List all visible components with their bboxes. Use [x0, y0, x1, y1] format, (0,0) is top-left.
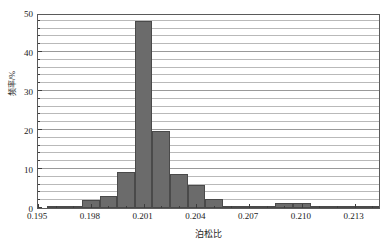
- y-axis-minor-tick: [38, 184, 40, 185]
- y-axis-major-tick: [38, 207, 42, 208]
- y-axis-tick-label: 50: [24, 10, 33, 19]
- y-axis-major-tick: [38, 168, 42, 169]
- y-axis-minor-tick: [38, 106, 40, 107]
- y-axis-minor-tick: [38, 176, 40, 177]
- y-axis-tick-label: 10: [24, 166, 33, 175]
- x-axis-minor-tick: [337, 206, 338, 208]
- y-axis-minor-tick: [38, 199, 40, 200]
- y-axis-minor-tick: [38, 20, 40, 21]
- x-axis-tick-label: 0.210: [291, 211, 311, 221]
- x-axis-major-tick: [196, 204, 197, 208]
- y-axis-minor-tick: [38, 113, 40, 114]
- y-axis-minor-tick: [38, 59, 40, 60]
- histogram-figure: 频率/% 01020304050 0.1950.1980.2010.2040.2…: [0, 0, 388, 249]
- x-axis-major-tick: [249, 204, 250, 208]
- x-tick-label-group: 0.1950.1980.2010.2040.2070.2100.213: [37, 211, 380, 225]
- x-axis-major-tick: [144, 204, 145, 208]
- y-axis-tick-label: 30: [24, 88, 33, 97]
- x-axis-tick-label: 0.198: [80, 211, 100, 221]
- y-axis-minor-tick: [38, 98, 40, 99]
- histogram-bar: [170, 174, 188, 208]
- x-axis-minor-tick: [161, 206, 162, 208]
- y-axis-minor-tick: [38, 74, 40, 75]
- x-axis-minor-tick: [372, 206, 373, 208]
- y-axis-minor-tick: [38, 121, 40, 122]
- x-axis-major-tick: [302, 204, 303, 208]
- x-axis-tick-label: 0.207: [238, 211, 258, 221]
- x-axis-minor-tick: [319, 206, 320, 208]
- y-axis-minor-tick: [38, 35, 40, 36]
- x-axis-minor-tick: [56, 206, 57, 208]
- y-axis-major-tick: [38, 129, 42, 130]
- x-axis-tick-label: 0.204: [185, 211, 205, 221]
- plot-area: [37, 14, 380, 209]
- y-axis-tick-label: 40: [24, 49, 33, 58]
- x-axis-minor-tick: [267, 206, 268, 208]
- y-axis-minor-tick: [38, 152, 40, 153]
- x-axis-minor-tick: [231, 206, 232, 208]
- y-axis-minor-tick: [38, 82, 40, 83]
- x-axis-tick-label: 0.195: [27, 211, 47, 221]
- x-axis-minor-tick: [108, 206, 109, 208]
- x-axis-minor-tick: [284, 206, 285, 208]
- y-axis-minor-tick: [38, 160, 40, 161]
- y-axis-minor-tick: [38, 28, 40, 29]
- y-axis-major-tick: [38, 90, 42, 91]
- histogram-bar: [152, 131, 170, 208]
- histogram-bar: [117, 172, 135, 208]
- x-axis-major-tick: [91, 204, 92, 208]
- y-axis-major-tick: [38, 51, 42, 52]
- y-axis-minor-tick: [38, 67, 40, 68]
- x-axis-minor-tick: [179, 206, 180, 208]
- x-axis-minor-tick: [73, 206, 74, 208]
- x-axis-tick-label: 0.201: [132, 211, 152, 221]
- histogram-bar-group: [38, 15, 379, 208]
- x-axis-title: 泊松比: [37, 227, 380, 240]
- x-axis-minor-tick: [126, 206, 127, 208]
- y-axis-minor-tick: [38, 137, 40, 138]
- x-axis-major-tick: [355, 204, 356, 208]
- y-axis-minor-tick: [38, 145, 40, 146]
- y-axis-tick-label: 20: [24, 127, 33, 136]
- y-axis-minor-tick: [38, 191, 40, 192]
- x-axis-tick-label: 0.213: [343, 211, 363, 221]
- x-axis-minor-tick: [214, 206, 215, 208]
- y-axis-minor-tick: [38, 43, 40, 44]
- histogram-bar: [135, 21, 153, 208]
